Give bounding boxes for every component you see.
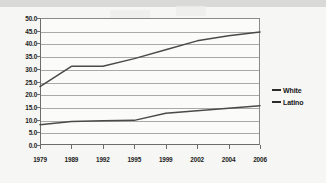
x-axis-tick-label: 1995 xyxy=(127,156,141,163)
x-axis: 19791989199219951999200220042006 xyxy=(40,145,260,175)
series-line-latino xyxy=(40,106,260,125)
legend-label: Latino xyxy=(283,99,303,106)
legend-item-white: White xyxy=(272,84,324,96)
x-axis-tick-mark xyxy=(229,145,230,149)
x-axis-tick-label: 1979 xyxy=(33,156,47,163)
x-axis-tick-label: 2002 xyxy=(190,156,204,163)
x-axis-tick-label: 1989 xyxy=(65,156,79,163)
x-axis-tick-label: 2004 xyxy=(222,156,236,163)
x-axis-tick-label: 1992 xyxy=(96,156,110,163)
x-axis-tick-label: 2006 xyxy=(253,156,267,163)
x-axis-tick-mark xyxy=(166,145,167,149)
x-axis-tick-mark xyxy=(197,145,198,149)
line-chart: 50.045.040.035.030.025.020.015.010.05.00… xyxy=(0,0,326,183)
x-axis-tick-label: 1999 xyxy=(159,156,173,163)
legend-label: White xyxy=(283,87,302,94)
series-layer xyxy=(40,18,260,145)
series-line-white xyxy=(40,32,260,87)
x-axis-tick-mark xyxy=(134,145,135,149)
x-axis-tick-mark xyxy=(103,145,104,149)
x-axis-tick-mark xyxy=(71,145,72,149)
x-axis-tick-mark xyxy=(40,145,41,149)
legend-swatch-icon xyxy=(272,101,281,103)
legend-swatch-icon xyxy=(272,89,281,91)
x-axis-tick-mark xyxy=(260,145,261,149)
legend-item-latino: Latino xyxy=(272,96,324,108)
chart-legend: White Latino xyxy=(272,84,324,108)
y-axis: 50.045.040.035.030.025.020.015.010.05.00… xyxy=(0,18,40,145)
